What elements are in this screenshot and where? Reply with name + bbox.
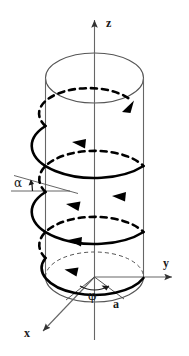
phi-arrowhead: [102, 285, 110, 290]
radius-label: a: [113, 297, 119, 311]
x-axis-label: x: [24, 326, 30, 340]
helix-cylinder-diagram: z y x α φ a: [0, 0, 189, 356]
helix-arrowhead-bottom-front: [65, 268, 79, 277]
helix-front-segment-3: [32, 126, 144, 178]
azimuth-angle-label: φ: [88, 289, 96, 303]
helix-back-segment-3: [39, 88, 132, 126]
diagram-canvas: z y x α φ a: [0, 0, 189, 356]
z-axis-label: z: [106, 16, 112, 30]
alpha-arrowhead: [29, 180, 34, 186]
helix-arrowhead-mid-front-left: [66, 202, 81, 212]
helix-arrowhead-upper-back: [72, 139, 86, 149]
helix-arrowhead-mid-front-right: [112, 192, 126, 202]
helix-front-segment-2: [32, 192, 144, 244]
y-axis-label: y: [163, 256, 169, 270]
coordinate-axes: [43, 20, 172, 340]
pitch-angle-label: α: [14, 176, 22, 190]
x-axis-line: [43, 277, 95, 331]
helix-direction-arrows: [65, 101, 135, 277]
helix-arrowhead-top: [122, 101, 134, 114]
helix-curve: [32, 88, 144, 295]
